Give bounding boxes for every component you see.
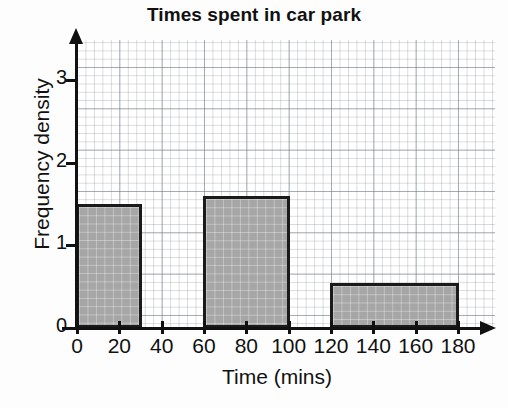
x-axis-tick	[161, 321, 164, 334]
x-axis-tick	[76, 321, 79, 334]
histogram-bar	[203, 196, 290, 328]
x-axis-tick	[118, 321, 121, 334]
x-axis-tick	[288, 321, 291, 334]
histogram-chart: Times spent in car park 0 1 2 3 0 20 40 …	[0, 0, 508, 408]
x-axis-tick-label: 20	[99, 334, 139, 358]
histogram-bar	[76, 204, 142, 328]
x-axis-title: Time (mins)	[77, 365, 477, 389]
y-axis-tick	[66, 244, 78, 247]
chart-title: Times spent in car park	[0, 4, 508, 26]
x-axis-tick	[330, 321, 333, 334]
x-axis-line	[62, 327, 482, 330]
x-axis-tick-label: 0	[57, 334, 97, 358]
x-axis-tick	[203, 321, 206, 334]
x-axis-tick	[245, 321, 248, 334]
x-axis-tick-label: 180	[438, 334, 478, 358]
y-axis-line	[75, 42, 78, 330]
x-axis-tick-label: 140	[353, 334, 393, 358]
y-axis-arrowhead	[69, 28, 83, 44]
y-axis-title: Frequency density	[30, 34, 54, 294]
x-axis-arrowhead	[480, 321, 496, 335]
x-axis-tick-label: 100	[269, 334, 309, 358]
y-axis-tick	[66, 79, 78, 82]
y-axis-tick	[66, 162, 78, 165]
x-axis-tick	[372, 321, 375, 334]
x-axis-tick-label: 160	[396, 334, 436, 358]
x-axis-tick-label: 60	[184, 334, 224, 358]
x-axis-tick-label: 40	[142, 334, 182, 358]
x-axis-tick-label: 120	[311, 334, 351, 358]
histogram-bar	[330, 283, 459, 328]
x-axis-tick	[457, 321, 460, 334]
x-axis-tick-label: 80	[226, 334, 266, 358]
x-axis-tick	[415, 321, 418, 334]
